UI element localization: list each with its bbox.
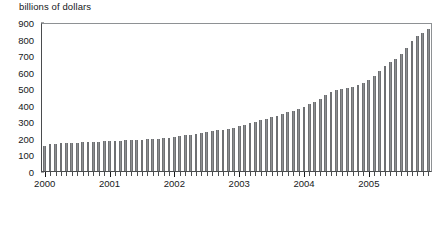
- bar: [124, 140, 127, 171]
- bar: [373, 76, 376, 171]
- x-axis-tick-mark: [369, 172, 370, 177]
- x-axis-tick-mark: [174, 172, 175, 177]
- y-axis-tick-label: 100: [18, 150, 34, 161]
- bar: [243, 125, 246, 171]
- x-axis-tick-mark: [115, 172, 116, 176]
- x-axis-tick-mark: [277, 172, 278, 176]
- x-axis-tick-mark: [207, 172, 208, 176]
- x-axis-tick-label: 2003: [229, 178, 250, 189]
- x-axis-tick-mark: [380, 172, 381, 176]
- bar: [265, 119, 268, 171]
- x-axis-tick-mark: [363, 172, 364, 176]
- bar: [254, 122, 257, 171]
- bar: [313, 102, 316, 171]
- x-axis-tick-mark: [147, 172, 148, 176]
- x-axis-tick-mark: [428, 172, 429, 176]
- x-axis-tick-mark: [110, 172, 111, 177]
- x-axis-tick-mark: [255, 172, 256, 176]
- bar: [249, 123, 252, 171]
- x-axis-tick-mark: [401, 172, 402, 176]
- bar: [189, 135, 192, 172]
- x-axis-tick-mark: [142, 172, 143, 176]
- x-axis-tick-mark: [320, 172, 321, 176]
- y-axis-tick-label: 500: [18, 84, 34, 95]
- bar: [335, 90, 338, 171]
- x-axis-tick-mark: [99, 172, 100, 176]
- x-axis-tick-mark: [293, 172, 294, 176]
- x-axis-tick-mark: [66, 172, 67, 176]
- x-axis-tick-label: 2000: [34, 178, 55, 189]
- x-axis-tick-mark: [50, 172, 51, 176]
- x-axis-tick-mark: [223, 172, 224, 176]
- bar: [340, 89, 343, 171]
- bar: [389, 62, 392, 171]
- x-axis-tick-mark: [315, 172, 316, 176]
- bar: [367, 80, 370, 171]
- bar: [60, 143, 63, 171]
- x-axis-tick-mark: [212, 172, 213, 176]
- x-axis-tick-mark: [83, 172, 84, 176]
- bar: [297, 109, 300, 171]
- bar: [400, 54, 403, 171]
- y-axis-tick-label: 300: [18, 117, 34, 128]
- bar: [195, 134, 198, 171]
- bar: [114, 141, 117, 171]
- x-axis-tick-mark: [56, 172, 57, 176]
- bar: [362, 83, 365, 171]
- bar: [222, 130, 225, 171]
- bar: [97, 142, 100, 171]
- bar: [65, 143, 68, 171]
- x-axis-tick-mark: [288, 172, 289, 176]
- x-axis-tick-label: 2002: [164, 178, 185, 189]
- x-axis-tick-mark: [228, 172, 229, 176]
- x-axis-tick-mark: [353, 172, 354, 176]
- x-axis-tick-mark: [191, 172, 192, 176]
- x-axis-tick-mark: [342, 172, 343, 176]
- x-axis-tick-mark: [218, 172, 219, 176]
- bar: [416, 36, 419, 171]
- bar: [281, 114, 284, 171]
- x-axis-tick-mark: [104, 172, 105, 176]
- bar: [49, 144, 52, 171]
- bar: [232, 128, 235, 171]
- x-axis-tick-mark: [137, 172, 138, 176]
- x-axis-tick-label: 2004: [293, 178, 314, 189]
- bar: [270, 117, 273, 171]
- x-axis-tick-mark: [77, 172, 78, 176]
- x-axis-tick-mark: [331, 172, 332, 176]
- y-axis-tick-label: 700: [18, 51, 34, 62]
- x-axis-tick-mark: [390, 172, 391, 176]
- x-axis-tick-mark: [196, 172, 197, 176]
- x-axis-tick-mark: [169, 172, 170, 176]
- x-axis-tick-mark: [61, 172, 62, 176]
- x-axis-tick-mark: [234, 172, 235, 176]
- bar: [119, 141, 122, 171]
- bar: [308, 104, 311, 171]
- bar: [303, 107, 306, 171]
- x-axis-tick-mark: [417, 172, 418, 176]
- bar: [427, 29, 430, 171]
- bar: [81, 142, 84, 171]
- x-axis-tick-mark: [385, 172, 386, 176]
- x-axis-tick-mark: [201, 172, 202, 176]
- bar: [378, 71, 381, 171]
- bar: [141, 140, 144, 171]
- x-axis-tick-mark: [282, 172, 283, 176]
- bar: [173, 137, 176, 171]
- y-axis-tick-label: 600: [18, 67, 34, 78]
- x-axis-tick-mark: [93, 172, 94, 176]
- x-axis-tick-mark: [347, 172, 348, 176]
- bar: [357, 85, 360, 171]
- x-axis-tick-label: 2005: [358, 178, 379, 189]
- bar: [146, 139, 149, 171]
- x-axis-tick-mark: [272, 172, 273, 176]
- x-axis-tick-mark: [131, 172, 132, 176]
- bar: [178, 136, 181, 171]
- bar: [200, 133, 203, 171]
- x-axis-tick-mark: [126, 172, 127, 176]
- bar: [103, 141, 106, 171]
- bar: [276, 116, 279, 171]
- x-axis-tick-mark: [412, 172, 413, 176]
- x-axis: 200020012002200320042005: [0, 178, 439, 194]
- x-axis-tick-mark: [396, 172, 397, 176]
